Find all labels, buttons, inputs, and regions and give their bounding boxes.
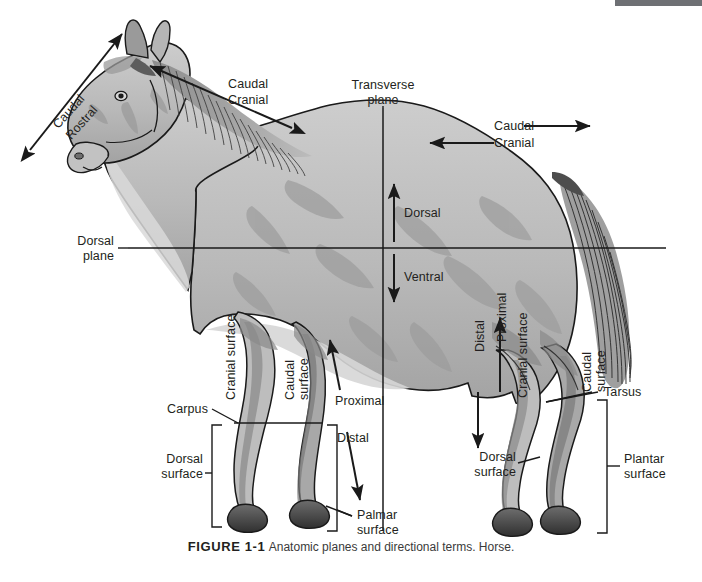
label-hindlimb-distal: Distal xyxy=(473,320,487,352)
label-forelimb-palmar-surface-line2: surface xyxy=(357,523,399,537)
horse-muzzle xyxy=(67,142,108,172)
label-hindlimb-dorsal-surface-line1: Dorsal xyxy=(440,450,516,464)
label-dorsal-plane-line2: plane xyxy=(48,249,114,263)
label-tarsus: Tarsus xyxy=(604,385,641,399)
label-forelimb-cranial-surface: Cranial surface xyxy=(224,314,238,400)
label-hindlimb-proximal: Proximal xyxy=(495,293,509,342)
label-trunk-caudal: Caudal xyxy=(494,119,534,133)
label-dorsal-plane-line1: Dorsal xyxy=(48,234,114,248)
label-hindlimb-caudal-surface-line1: Caudal xyxy=(580,352,594,392)
label-transverse-plane-line1: Transverse xyxy=(344,78,422,92)
horse-hoof-far-fore xyxy=(290,500,330,528)
horse-hoof-near-fore xyxy=(228,504,268,532)
label-transverse-plane-line2: plane xyxy=(344,93,422,107)
label-body-dorsal: Dorsal xyxy=(404,206,441,220)
label-forelimb-dorsal-surface-line2: surface xyxy=(133,467,203,481)
label-carpus: Carpus xyxy=(140,402,208,416)
horse-nostril xyxy=(75,153,83,159)
label-forelimb-proximal: Proximal xyxy=(335,394,384,408)
bracket-hindlimb-plantar-surface xyxy=(597,400,607,533)
label-forelimb-caudal-surface-line2: surface xyxy=(297,358,311,400)
label-forelimb-palmar-surface-line1: Palmar xyxy=(357,508,397,522)
label-forelimb-caudal-surface-line1: Caudal xyxy=(283,360,297,400)
label-hindlimb-cranial-surface: Cranial surface xyxy=(516,312,530,398)
anatomy-figure: Caudal Rostral Caudal Cranial Transverse… xyxy=(0,0,702,582)
horse-hoof-far-hind xyxy=(541,506,581,534)
label-forelimb-dorsal-surface-line1: Dorsal xyxy=(133,452,203,466)
horse-eye-pupil xyxy=(118,94,123,99)
horse-ear-left xyxy=(125,20,148,58)
label-hindlimb-plantar-surface-line1: Plantar xyxy=(624,452,664,466)
figure-caption: FIGURE 1-1 Anatomic planes and direction… xyxy=(0,539,702,554)
label-forelimb-distal: Distal xyxy=(337,431,369,445)
horse-hoof-near-hind xyxy=(493,508,533,536)
label-hindlimb-plantar-surface-line2: surface xyxy=(624,467,666,481)
figure-caption-text: Anatomic planes and directional terms. H… xyxy=(269,540,514,554)
label-body-ventral: Ventral xyxy=(404,270,444,284)
figure-caption-label: FIGURE 1-1 xyxy=(188,539,266,554)
bracket-forelimb-dorsal-surface xyxy=(212,425,222,527)
label-hindlimb-dorsal-surface-line2: surface xyxy=(440,465,516,479)
label-neck-caudal: Caudal xyxy=(228,77,268,91)
label-neck-cranial: Cranial xyxy=(228,93,268,107)
label-trunk-cranial: Cranial xyxy=(494,136,534,150)
leader-carpus xyxy=(212,409,238,423)
